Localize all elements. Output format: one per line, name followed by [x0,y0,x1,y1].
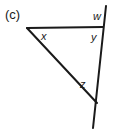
angle-label-z: z [80,79,86,90]
angle-label-y: y [91,32,97,43]
transversal-line [93,6,106,128]
geometry-figure: (c) w x y z [0,0,115,133]
top-horizontal-line [27,27,103,28]
angle-label-w: w [93,11,101,22]
angle-label-x: x [41,31,47,42]
part-label: (c) [5,8,20,21]
diagonal-line [27,28,97,103]
